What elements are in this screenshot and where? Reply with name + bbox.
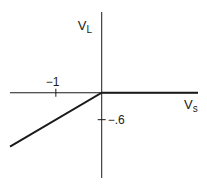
x-tick-label: −1 (46, 75, 60, 89)
y-axis-label: VL (78, 18, 93, 35)
y-tick-label: −.6 (108, 113, 125, 127)
transfer-characteristic-chart: −1−.6 VL Vs (0, 0, 207, 185)
x-axis-label: Vs (184, 97, 198, 114)
